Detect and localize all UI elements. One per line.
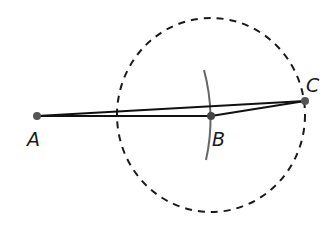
geometry-diagram: A B C xyxy=(0,0,334,226)
point-c xyxy=(301,97,309,105)
label-a: A xyxy=(25,128,40,150)
point-a xyxy=(33,112,41,120)
point-b xyxy=(207,112,215,120)
label-b: B xyxy=(212,128,225,150)
label-c: C xyxy=(306,74,320,96)
segment-ac xyxy=(37,101,305,116)
